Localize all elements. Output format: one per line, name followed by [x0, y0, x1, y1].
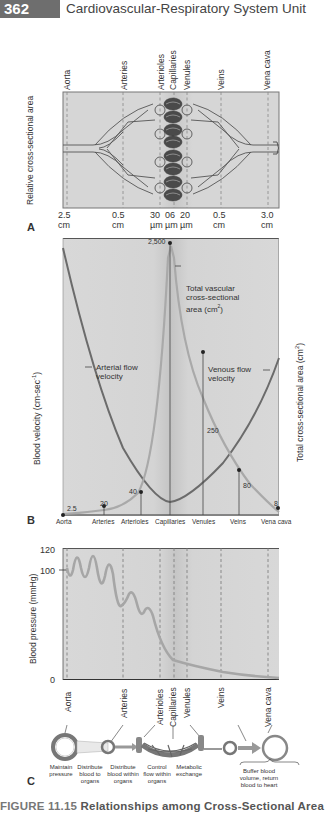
annotation-venous: Venous flow velocity — [208, 365, 251, 383]
function-line: pressure — [48, 771, 74, 778]
annotation-line: velocity — [208, 374, 251, 383]
label-veins: Veins — [216, 687, 226, 708]
diameter-value: 30 — [150, 210, 166, 220]
category-veins: Veins — [230, 518, 246, 525]
panel-letter-b: B — [27, 514, 35, 526]
panel-letter-c: C — [27, 775, 35, 787]
diameter-arteries: 0.5cm — [112, 210, 136, 230]
ylabel-sup: 2 — [294, 346, 300, 349]
diameter-value: 0.5 — [213, 210, 237, 220]
annotation-line: Venous flow — [208, 365, 251, 374]
function-line: blood to heart — [236, 782, 282, 789]
point-label-arterioles: 40 — [129, 488, 137, 495]
label-vena-cava: Vena cava — [263, 687, 273, 727]
figure-title: Relationships among Cross-Sectional Area — [81, 800, 324, 812]
figure-label: FIGURE 11.15 — [0, 800, 77, 812]
diameter-unit: cm — [58, 220, 82, 230]
label-venules: Venules — [182, 60, 192, 90]
function-veins: Buffer bloodvolume, returnblood to heart — [236, 768, 282, 789]
point-label-aorta: 2.5 — [67, 505, 77, 512]
panel-b-ylabel-right: Total cross-sectional area (cm2) — [294, 343, 305, 462]
diameter-veins: 0.5cm — [213, 210, 237, 230]
function-capillaries-control: Controlflow withinorgans — [141, 764, 173, 785]
unit-title: Cardiovascular-Respiratory System Unit — [66, 1, 306, 16]
diameter-unit: µm — [180, 220, 196, 230]
function-line: Maintain — [48, 764, 74, 771]
function-line: organs — [76, 778, 104, 785]
function-arteries: Distributeblood toorgans — [76, 764, 104, 785]
category-aorta: Aorta — [56, 518, 72, 525]
point-label-venules: 250 — [207, 427, 219, 434]
ylabel-paren: ) — [295, 343, 305, 346]
diameter-capillaries: 06µm — [165, 210, 181, 230]
category-capillaries: Capillaries — [155, 518, 185, 525]
annotation-line: area (cm2) — [186, 302, 239, 314]
function-line: Control — [141, 764, 173, 771]
ylabel-paren: ) — [32, 372, 42, 375]
function-line: Metabolic — [174, 764, 204, 771]
label-aorta: Aorta — [62, 70, 72, 90]
label-arterioles: Arterioles — [155, 689, 165, 725]
label-arterioles: Arterioles — [156, 54, 166, 90]
function-line: Distribute — [106, 764, 140, 771]
diameter-unit: cm — [261, 220, 285, 230]
category-venules: Venules — [192, 518, 215, 525]
label-capillaries: Capillaries — [168, 687, 178, 727]
diameter-value: 0.5 — [112, 210, 136, 220]
page-number: 362 — [0, 0, 60, 18]
annotation-line: cross-sectional — [186, 293, 239, 302]
annotation-text: area (cm — [186, 305, 218, 314]
annotation-area: Total vascular cross-sectional area (cm2… — [186, 284, 239, 314]
label-arteries: Arteries — [119, 61, 129, 90]
function-line: organs — [106, 778, 140, 785]
label-veins: Veins — [216, 69, 226, 90]
label-capillaries: Capillaries — [168, 50, 178, 90]
vessel-icons-row — [40, 725, 300, 765]
point-label-vena-cava: 8 — [274, 500, 278, 507]
label-arteries: Arteries — [119, 689, 129, 718]
panel-letter-a: A — [27, 221, 35, 233]
function-line: exchange — [174, 771, 204, 778]
diameter-unit: cm — [213, 220, 237, 230]
panel-c-ylabel: Blood pressure (mmHg) — [28, 574, 38, 664]
function-line: Buffer blood — [236, 768, 282, 775]
function-line: blood within — [106, 771, 140, 778]
ylabel-text: Blood velocity (cm-sec — [32, 380, 42, 465]
category-arteries: Arteries — [92, 518, 114, 525]
ytick-0: 0 — [50, 675, 55, 685]
function-line: flow within — [141, 771, 173, 778]
panel-b-ylabel-left: Blood velocity (cm-sec-1) — [31, 372, 42, 465]
vessel-branching-diagram — [63, 92, 279, 208]
category-arterioles: Arterioles — [121, 518, 148, 525]
category-vena-cava: Vena cava — [261, 518, 291, 525]
function-arterioles: Distributeblood withinorgans — [106, 764, 140, 785]
diameter-unit: cm — [112, 220, 136, 230]
diameter-vena-cava: 3.0cm — [261, 210, 285, 230]
diameter-aorta: 2.5cm — [58, 210, 82, 230]
annotation-line: velocity — [96, 372, 138, 381]
annotation-line: Arterial flow — [96, 363, 138, 372]
annotation-sup: 2 — [218, 303, 221, 309]
annotation-line: Total vascular — [186, 284, 239, 293]
annotation-arterial: Arterial flow velocity — [96, 363, 138, 381]
panel-a-ylabel: Relative cross-sectional area — [25, 96, 35, 205]
ytick-100: 100 — [40, 566, 55, 576]
function-aorta: Maintainpressure — [48, 764, 74, 778]
label-venules: Venules — [182, 688, 192, 718]
diameter-arterioles: 30µm — [150, 210, 166, 230]
ylabel-sup: -1 — [31, 375, 37, 380]
ytick-120: 120 — [40, 545, 55, 555]
diameter-value: 06 — [165, 210, 181, 220]
function-line: Distribute — [76, 764, 104, 771]
function-line: organs — [141, 778, 173, 785]
label-aorta: Aorta — [63, 692, 73, 712]
point-label-arteries: 20 — [100, 500, 108, 507]
function-venules-exchange: Metabolicexchange — [174, 764, 204, 778]
function-line: volume, return — [236, 775, 282, 782]
point-label-veins: 80 — [243, 482, 251, 489]
label-vena-cava: Vena cava — [262, 50, 272, 90]
diameter-unit: µm — [165, 220, 181, 230]
function-line: blood to — [76, 771, 104, 778]
diameter-value: 2.5 — [58, 210, 82, 220]
ylabel-text: Total cross-sectional area (cm — [295, 349, 305, 462]
